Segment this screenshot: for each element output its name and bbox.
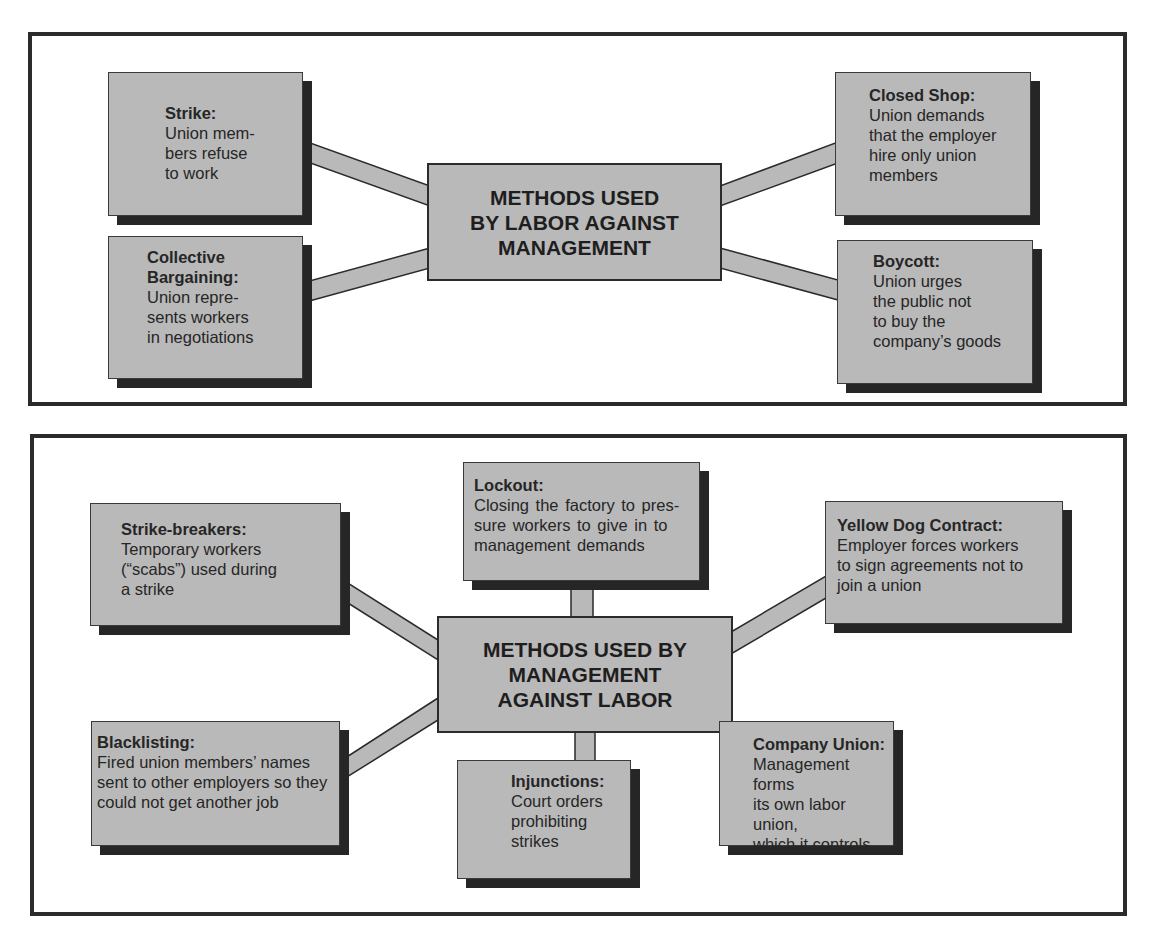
node-title: Boycott: (873, 251, 1032, 271)
node-strike-breakers: Strike-breakers: Temporary workers (“sca… (90, 503, 341, 626)
connector-blacklisting (339, 698, 438, 782)
center-labor-vs-management: METHODS USED BY LABOR AGAINST MANAGEMENT (427, 163, 722, 281)
node-title: Collective Bargaining: (147, 247, 302, 287)
node-description: Union urges the public not to buy the co… (873, 271, 1032, 351)
node-title: Closed Shop: (869, 85, 1030, 105)
node-title: Yellow Dog Contract: (837, 515, 1062, 535)
node-title: Lockout: (474, 475, 699, 495)
connector-lockout (571, 580, 593, 617)
node-description: Court orders prohibiting strikes (511, 791, 630, 851)
connector-injunctions (575, 731, 595, 761)
node-description: Union mem- bers refuse to work (165, 123, 302, 183)
node-description: Temporary workers (“scabs”) used during … (121, 539, 340, 599)
node-yellow-dog-contract: Yellow Dog Contract: Employer forces wor… (825, 501, 1063, 624)
node-description: Fired union members’ names sent to other… (97, 752, 339, 812)
node-description: Management forms its own labor union, wh… (753, 754, 893, 854)
connector-closed-shop (720, 142, 838, 206)
connector-strike-breakers (340, 578, 438, 660)
node-title: Blacklisting: (97, 732, 339, 752)
node-title: Strike-breakers: (121, 519, 340, 539)
connector-collective (302, 248, 430, 303)
center-management-vs-labor: METHODS USED BY MANAGEMENT AGAINST LABOR (437, 616, 733, 733)
node-lockout: Lockout: Closing the factory to pres- su… (463, 462, 700, 581)
node-description: Closing the factory to pres- sure worker… (474, 495, 699, 555)
connector-strike (302, 140, 430, 206)
node-collective-bargaining: Collective Bargaining: Union repre- sent… (108, 236, 303, 379)
node-boycott: Boycott: Union urges the public not to b… (837, 240, 1033, 384)
node-injunctions: Injunctions: Court orders prohibiting st… (457, 760, 631, 879)
node-description: Employer forces workers to sign agreemen… (837, 535, 1062, 595)
node-description: Union demands that the employer hire onl… (869, 105, 1030, 185)
node-company-union: Company Union: Management forms its own … (719, 721, 894, 846)
node-title: Strike: (165, 103, 302, 123)
connector-yellow-dog (731, 576, 826, 654)
node-description: Union repre- sents workers in negotiatio… (147, 287, 302, 347)
node-title: Company Union: (753, 734, 893, 754)
node-blacklisting: Blacklisting: Fired union members’ names… (91, 721, 340, 846)
node-title: Injunctions: (511, 771, 630, 791)
node-strike: Strike: Union mem- bers refuse to work (108, 72, 303, 216)
connector-boycott (720, 248, 838, 300)
node-closed-shop: Closed Shop: Union demands that the empl… (835, 72, 1031, 216)
